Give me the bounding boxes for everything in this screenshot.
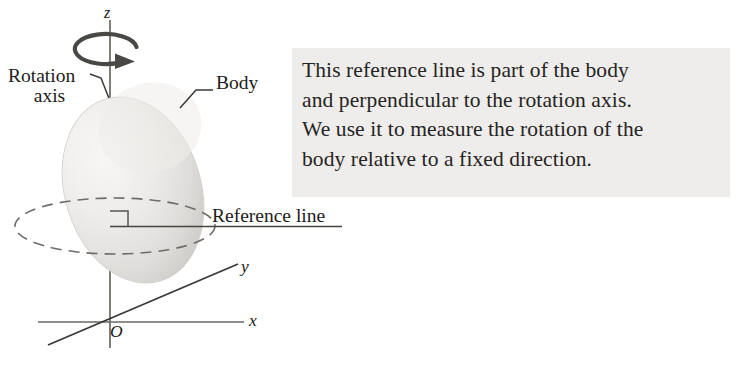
rotation-direction-arrow [75,34,137,69]
callout-line-4: body relative to a fixed direction. [302,145,726,175]
y-axis-label: y [241,256,249,277]
z-axis-label: z [104,4,110,22]
callout-text: This reference line is part of the body … [302,56,726,174]
reference-line-label: Reference line [212,205,325,227]
rotation-axis-label: Rotation axis [8,66,94,106]
callout-line-3: We use it to measure the rotation of the [302,115,726,145]
callout-line-1: This reference line is part of the body [302,56,726,86]
rotation-axis-label-line1: Rotation [8,65,75,86]
callout-line-2: and perpendicular to the rotation axis. [302,86,726,116]
origin-label: O [110,321,123,342]
rigid-body-rotation-figure: This reference line is part of the body … [0,0,742,367]
rotation-axis-label-line2: axis [8,86,91,106]
x-axis-label: x [249,310,257,331]
body-label: Body [216,72,258,94]
